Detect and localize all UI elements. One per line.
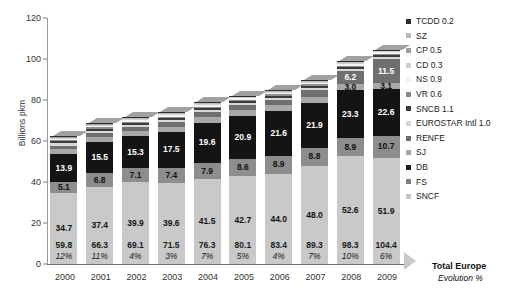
bar-segment-sncb[interactable] bbox=[337, 67, 364, 69]
bar-segment-vr[interactable] bbox=[122, 122, 149, 123]
bar-segment-renfe[interactable] bbox=[86, 133, 113, 137]
legend-item[interactable]: VR 0.6 bbox=[406, 87, 505, 102]
legend-item[interactable]: FS bbox=[406, 175, 505, 190]
bar-segment-sncb[interactable] bbox=[86, 129, 113, 131]
bar-segment-fs[interactable]: 7.4 bbox=[158, 168, 185, 183]
legend-item[interactable]: SZ bbox=[406, 29, 505, 44]
legend-item[interactable]: CD 0.3 bbox=[406, 58, 505, 73]
bar-segment-vr[interactable] bbox=[301, 84, 328, 85]
bar-segment-cd[interactable] bbox=[337, 63, 364, 64]
bar-segment-sj[interactable] bbox=[194, 117, 221, 123]
bar-segment-renfe[interactable] bbox=[301, 90, 328, 97]
bar-segment-sncb[interactable] bbox=[158, 118, 185, 120]
bar-segment-db[interactable]: 21.9 bbox=[301, 103, 328, 148]
bar-segment-sj[interactable] bbox=[265, 105, 292, 111]
bar-segment-cd[interactable] bbox=[265, 92, 292, 93]
bar-stack[interactable]: 37.46.815.5 bbox=[86, 18, 113, 264]
legend-item[interactable]: SNCF bbox=[406, 189, 505, 204]
bar-segment-cp[interactable] bbox=[265, 91, 292, 92]
bar-segment-sj[interactable] bbox=[122, 131, 149, 136]
bar-segment-sj[interactable]: 3.0 bbox=[337, 84, 364, 90]
bar-segment-cp[interactable] bbox=[158, 113, 185, 114]
bar-segment-sj[interactable] bbox=[301, 97, 328, 103]
bar-segment-sncb[interactable] bbox=[301, 86, 328, 88]
bar-segment-ns[interactable] bbox=[122, 120, 149, 122]
bar-segment-db[interactable]: 19.6 bbox=[194, 123, 221, 163]
bar-segment-sj[interactable] bbox=[229, 110, 256, 116]
bar-segment-cp[interactable] bbox=[122, 118, 149, 119]
bar-segment-ns[interactable] bbox=[337, 64, 364, 66]
bar-stack[interactable]: 34.75.113.9 bbox=[50, 18, 77, 264]
bar-segment-eurostar[interactable] bbox=[265, 98, 292, 100]
bar-segment-sncb[interactable] bbox=[229, 101, 256, 103]
bar-segment-ns[interactable] bbox=[229, 98, 256, 100]
bar-segment-vr[interactable] bbox=[265, 94, 292, 95]
bar-segment-renfe[interactable] bbox=[122, 127, 149, 131]
bar-segment-cp[interactable] bbox=[301, 81, 328, 82]
bar-segment-eurostar[interactable] bbox=[337, 69, 364, 71]
bar-segment-eurostar[interactable] bbox=[122, 125, 149, 127]
bar-segment-sj[interactable] bbox=[86, 137, 113, 142]
bar-segment-sj[interactable] bbox=[50, 149, 77, 154]
bar-segment-sncb[interactable] bbox=[373, 55, 400, 57]
bar-segment-renfe[interactable] bbox=[265, 100, 292, 105]
bar-segment-vr[interactable] bbox=[158, 117, 185, 118]
bar-segment-fs[interactable]: 10.7 bbox=[373, 136, 400, 158]
bar-segment-ns[interactable] bbox=[194, 105, 221, 107]
legend-item[interactable]: SJ bbox=[406, 145, 505, 160]
bar-stack[interactable]: 39.97.115.3 bbox=[122, 18, 149, 264]
bar-segment-sncb[interactable] bbox=[50, 141, 77, 143]
bar-segment-vr[interactable] bbox=[86, 127, 113, 128]
bar-segment-cp[interactable] bbox=[194, 103, 221, 104]
bar-stack[interactable]: 44.08.921.6 bbox=[265, 18, 292, 264]
bar-segment-db[interactable]: 15.5 bbox=[86, 142, 113, 174]
bar-segment-sj[interactable]: 3.1 bbox=[373, 83, 400, 89]
bar-stack[interactable]: 52.68.923.33.06.2 bbox=[337, 18, 364, 264]
bar-segment-db[interactable]: 21.6 bbox=[265, 111, 292, 155]
bar-segment-db[interactable]: 23.3 bbox=[337, 90, 364, 138]
bar-segment-vr[interactable] bbox=[337, 66, 364, 67]
bar-segment-ns[interactable] bbox=[301, 83, 328, 85]
bar-segment-cd[interactable] bbox=[194, 104, 221, 105]
bar-segment-renfe[interactable] bbox=[194, 112, 221, 117]
bar-segment-db[interactable]: 22.6 bbox=[373, 89, 400, 135]
legend-item[interactable]: SNCB 1.1 bbox=[406, 102, 505, 117]
bar-segment-renfe[interactable]: 11.5 bbox=[373, 59, 400, 83]
legend-item[interactable]: NS 0.9 bbox=[406, 72, 505, 87]
bar-segment-sncb[interactable] bbox=[194, 108, 221, 110]
legend-item[interactable]: EUROSTAR Intl 1.0 bbox=[406, 116, 505, 131]
bar-segment-fs[interactable]: 8.6 bbox=[229, 159, 256, 177]
bar-segment-cp[interactable] bbox=[50, 137, 77, 138]
bar-segment-cd[interactable] bbox=[158, 114, 185, 115]
bar-segment-db[interactable]: 13.9 bbox=[50, 154, 77, 182]
bar-segment-renfe[interactable] bbox=[50, 146, 77, 150]
bar-stack[interactable]: 42.78.620.9 bbox=[229, 18, 256, 264]
bar-stack[interactable]: 48.08.821.9 bbox=[301, 18, 328, 264]
bar-segment-vr[interactable] bbox=[194, 107, 221, 108]
bar-segment-cd[interactable] bbox=[373, 51, 400, 52]
bar-segment-sncb[interactable] bbox=[265, 96, 292, 98]
bar-segment-ns[interactable] bbox=[265, 93, 292, 95]
bar-segment-db[interactable]: 17.5 bbox=[158, 132, 185, 168]
bar-segment-eurostar[interactable] bbox=[158, 120, 185, 122]
bar-segment-cd[interactable] bbox=[50, 138, 77, 139]
bar-segment-eurostar[interactable] bbox=[229, 103, 256, 105]
bar-segment-eurostar[interactable] bbox=[86, 131, 113, 133]
bar-segment-ns[interactable] bbox=[373, 52, 400, 54]
bar-stack[interactable]: 41.57.919.6 bbox=[194, 18, 221, 264]
bar-segment-fs[interactable]: 7.1 bbox=[122, 168, 149, 183]
legend-item[interactable]: RENFE bbox=[406, 131, 505, 146]
bar-segment-cd[interactable] bbox=[86, 125, 113, 126]
bar-segment-renfe[interactable] bbox=[229, 105, 256, 110]
bar-segment-renfe[interactable]: 6.2 bbox=[337, 71, 364, 84]
legend-item[interactable]: TCDD 0.2 bbox=[406, 14, 505, 29]
bar-segment-eurostar[interactable] bbox=[301, 88, 328, 90]
bar-segment-cd[interactable] bbox=[229, 97, 256, 98]
bar-segment-fs[interactable]: 8.9 bbox=[337, 138, 364, 156]
bar-segment-renfe[interactable] bbox=[158, 122, 185, 127]
bar-segment-cp[interactable] bbox=[229, 96, 256, 97]
bar-stack[interactable]: 39.67.417.5 bbox=[158, 18, 185, 264]
legend-item[interactable]: CP 0.5 bbox=[406, 43, 505, 58]
bar-segment-cp[interactable] bbox=[373, 50, 400, 51]
bar-segment-vr[interactable] bbox=[50, 140, 77, 141]
